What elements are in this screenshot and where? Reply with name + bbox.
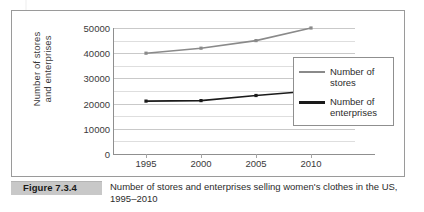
x-tick-label: 1995: [135, 158, 156, 169]
legend-item-stores: Number of stores: [299, 66, 391, 88]
y-tick-label: 10000: [84, 123, 110, 134]
figure-caption: Figure 7.3.4 Number of stores and enterp…: [11, 181, 405, 211]
legend-label-stores: Number of stores: [330, 66, 374, 88]
series-marker-stores: [309, 26, 312, 29]
legend-label-enterprises-line1: Number of: [330, 96, 377, 107]
chart-legend: Number of stores Number of enterprises: [293, 57, 394, 126]
series-marker-stores: [199, 47, 202, 50]
y-axis-title-line1: Number of stores: [31, 13, 42, 125]
figure-caption-line1: Number of stores and enterprises selling…: [110, 181, 410, 193]
y-tick-label: 50000: [84, 23, 110, 34]
chart-frame: Number of stores and enterprises 50000 4…: [11, 10, 405, 177]
y-axis-title: Number of stores and enterprises: [31, 13, 53, 125]
series-line-stores: [146, 28, 311, 53]
legend-label-stores-line1: Number of: [330, 66, 374, 77]
figure-number-label: Figure 7.3.4: [23, 182, 77, 193]
legend-item-enterprises: Number of enterprises: [299, 96, 391, 118]
series-line-enterprises: [146, 91, 311, 101]
legend-swatch-enterprises: [299, 101, 325, 104]
figure-caption-text: Number of stores and enterprises selling…: [110, 181, 410, 205]
series-marker-stores: [144, 52, 147, 55]
series-marker-enterprises: [254, 94, 257, 97]
legend-label-stores-line2: stores: [330, 77, 374, 88]
y-tick-label: 40000: [84, 48, 110, 59]
series-marker-enterprises: [199, 99, 202, 102]
x-axis-line: [113, 154, 375, 155]
legend-label-enterprises: Number of enterprises: [330, 96, 377, 118]
x-tick-label: 2000: [190, 158, 211, 169]
series-marker-enterprises: [144, 100, 147, 103]
legend-label-enterprises-line2: enterprises: [330, 107, 377, 118]
y-tick-label: 0: [105, 149, 110, 160]
y-tick-label: 30000: [84, 73, 110, 84]
figure-caption-line2: 1995–2010: [110, 193, 410, 205]
line-chart: Number of stores and enterprises 50000 4…: [12, 11, 406, 178]
x-tick-label: 2010: [300, 158, 321, 169]
x-tick-label: 2005: [245, 158, 266, 169]
figure-page: Number of stores and enterprises 50000 4…: [0, 0, 424, 212]
legend-swatch-stores: [299, 71, 325, 73]
y-axis-title-line2: and enterprises: [42, 13, 53, 125]
y-axis-tick-labels: 50000 40000 30000 20000 10000 0: [64, 11, 110, 178]
x-axis-tick-labels: 1995 2000 2005 2010: [113, 158, 375, 172]
series-marker-stores: [254, 39, 257, 42]
y-tick-label: 20000: [84, 98, 110, 109]
